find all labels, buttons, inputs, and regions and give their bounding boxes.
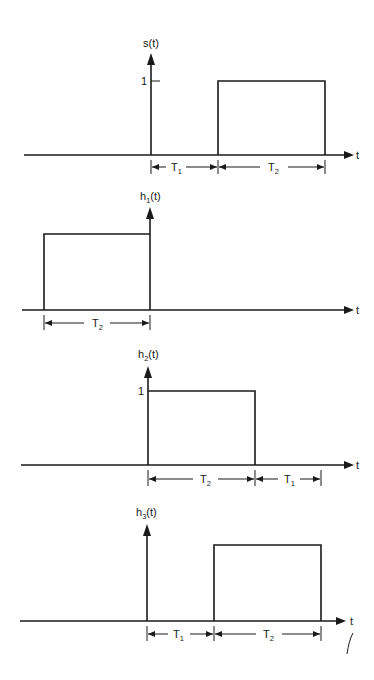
amplitude-axis-arrow-icon [144, 366, 152, 378]
time-axis-label: t [350, 615, 353, 627]
panel-h1: t h1(t) T2 [22, 190, 359, 332]
pulse [148, 391, 255, 465]
time-axis-arrow-icon [344, 151, 354, 159]
dimension-T2: T2 [268, 161, 279, 176]
dimension-T2: T2 [263, 628, 274, 643]
dimension-T1: T1 [171, 161, 182, 176]
time-axis-label: t [356, 459, 359, 471]
amplitude-label: 1 [141, 75, 147, 87]
dimension-T2: T2 [200, 473, 211, 488]
pulse [44, 234, 150, 310]
dimension-T1: T1 [284, 473, 295, 488]
panel-h3: t h3(t) T1 T2 [20, 506, 353, 654]
time-axis-label: t [356, 149, 359, 161]
pen-mark [347, 633, 353, 654]
dimension-T1: T1 [173, 628, 184, 643]
panel-label: h2(t) [138, 348, 159, 363]
time-axis-arrow-icon [344, 461, 354, 469]
panel-h2: t h2(t) 1 T2 T1 [21, 348, 359, 488]
panel-s: t s(t) 1 T1 T2 [24, 37, 359, 176]
panel-label: h3(t) [136, 506, 157, 521]
amplitude-axis-arrow-icon [143, 524, 151, 536]
amplitude-label: 1 [138, 385, 144, 397]
time-axis-arrow-icon [344, 306, 354, 314]
signal-diagram: t s(t) 1 T1 T2 t h1(t) T2 [0, 0, 374, 680]
amplitude-axis-arrow-icon [147, 53, 155, 65]
panel-label: s(t) [143, 37, 159, 49]
dimension-T2: T2 [92, 317, 103, 332]
time-axis-label: t [356, 304, 359, 316]
pulse [214, 545, 321, 621]
time-axis-arrow-icon [336, 617, 346, 625]
panel-label: h1(t) [140, 190, 161, 205]
amplitude-axis-arrow-icon [146, 207, 154, 219]
pulse [218, 81, 325, 155]
